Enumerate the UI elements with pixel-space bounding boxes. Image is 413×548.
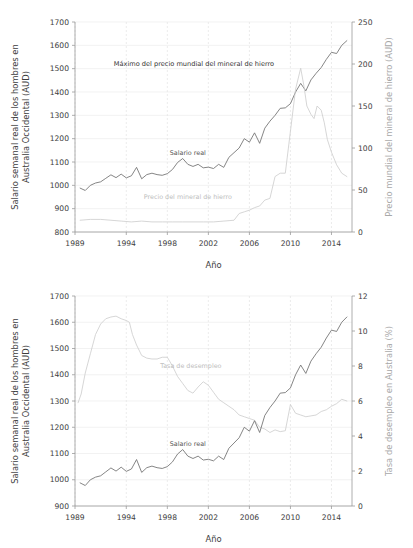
x-ticklabel: 2014 — [322, 239, 341, 248]
y-ticklabel-right: 2 — [358, 467, 363, 476]
y-ticklabel-left: 900 — [55, 204, 70, 213]
x-ticklabel: 2002 — [199, 513, 218, 522]
x-ticklabel: 2002 — [199, 239, 218, 248]
y-ticklabel-left: 1400 — [50, 370, 69, 379]
y-axis-title-left-line: Salario semanal real de los hombres en — [10, 44, 20, 210]
y-ticklabel-right: 6 — [358, 397, 363, 406]
x-ticklabel: 2010 — [281, 239, 300, 248]
series-line-tasa-de-desempleo — [78, 316, 347, 432]
y-ticklabel-right: 200 — [358, 60, 373, 69]
y-axis-title-left-line: Salario semanal real de los hombres en — [10, 318, 20, 484]
x-ticklabel: 2014 — [322, 513, 341, 522]
y-axis-title-right: Tasa de desempleo en Australia (%) — [384, 326, 394, 477]
y-ticklabel-right: 150 — [358, 102, 373, 111]
x-axis-title: Año — [205, 260, 221, 270]
series-label-precio-del-mineral-de-hierro: Precio del mineral de hierro — [144, 193, 232, 201]
chart-panel-top: 8009001000110012001300140015001600170005… — [0, 0, 413, 274]
y-ticklabel-left: 1200 — [50, 423, 69, 432]
series-label-tasa-de-desempleo: Tasa de desempleo — [159, 362, 221, 370]
y-ticklabel-right: 8 — [358, 362, 363, 371]
y-ticklabel-right: 10 — [358, 327, 368, 336]
y-ticklabel-left: 1700 — [50, 18, 69, 27]
x-ticklabel: 1994 — [117, 239, 136, 248]
y-ticklabel-left: 1700 — [50, 292, 69, 301]
x-ticklabel: 1989 — [65, 239, 84, 248]
chart-bottom-svg: 9001000110012001300140015001600170002468… — [0, 274, 413, 548]
y-ticklabel-left: 1600 — [50, 318, 69, 327]
x-ticklabel: 1998 — [158, 239, 177, 248]
y-ticklabel-left: 800 — [55, 228, 70, 237]
x-ticklabel: 2006 — [240, 239, 259, 248]
y-ticklabel-left: 1600 — [50, 41, 69, 50]
y-ticklabel-right: 250 — [358, 18, 373, 27]
y-ticklabel-right: 4 — [358, 432, 363, 441]
y-axis-title-left: Salario semanal real de los hombres enAu… — [10, 318, 31, 484]
figure-container: 8009001000110012001300140015001600170005… — [0, 0, 413, 548]
y-ticklabel-left: 1100 — [50, 449, 69, 458]
y-axis-title-left-line: Australia Occidental (AUD) — [21, 345, 31, 457]
series-label-salario-real: Salario real — [170, 440, 206, 448]
x-axis-title: Año — [205, 534, 221, 544]
y-axis-title-left-line: Australia Occidental (AUD) — [21, 71, 31, 183]
y-ticklabel-left: 900 — [55, 502, 70, 511]
y-ticklabel-left: 1500 — [50, 64, 69, 73]
y-ticklabel-left: 1000 — [50, 475, 69, 484]
x-ticklabel: 2010 — [281, 513, 300, 522]
x-ticklabel: 1994 — [117, 513, 136, 522]
y-ticklabel-right: 50 — [358, 186, 368, 195]
chart-annotation: Máximo del precio mundial del mineral de… — [114, 60, 274, 68]
chart-panel-bottom: 9001000110012001300140015001600170002468… — [0, 274, 413, 548]
series-label-salario-real: Salario real — [170, 149, 206, 157]
y-ticklabel-left: 1200 — [50, 134, 69, 143]
y-ticklabel-right: 0 — [358, 228, 363, 237]
y-ticklabel-right: 12 — [358, 292, 368, 301]
y-ticklabel-left: 1300 — [50, 111, 69, 120]
y-ticklabel-left: 1400 — [50, 88, 69, 97]
chart-top-svg: 8009001000110012001300140015001600170005… — [0, 0, 413, 274]
x-ticklabel: 1998 — [158, 513, 177, 522]
x-ticklabel: 1989 — [65, 513, 84, 522]
x-ticklabel: 2006 — [240, 513, 259, 522]
y-ticklabel-right: 0 — [358, 502, 363, 511]
y-ticklabel-left: 1000 — [50, 181, 69, 190]
y-ticklabel-left: 1500 — [50, 344, 69, 353]
y-axis-title-right: Precio mundial del mineral de hierro (AU… — [384, 37, 394, 217]
y-axis-title-left: Salario semanal real de los hombres enAu… — [10, 44, 31, 210]
y-ticklabel-left: 1300 — [50, 397, 69, 406]
y-ticklabel-left: 1100 — [50, 158, 69, 167]
y-ticklabel-right: 100 — [358, 144, 373, 153]
